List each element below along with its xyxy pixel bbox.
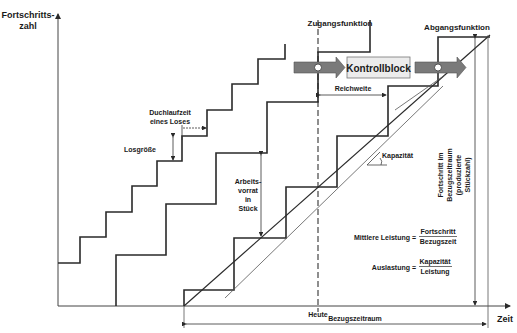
- x-axis-label: Zeit: [497, 314, 513, 324]
- fortschritt-label-2: Bezugszeitraum: [446, 148, 454, 202]
- arbeitsvorrat-label-2: vorrat: [238, 187, 259, 194]
- leistung-formula-den: Bezugszeit: [420, 238, 457, 246]
- capacity-line-2: [395, 75, 445, 110]
- durchlaufzeit-label-2: eines Loses: [150, 118, 190, 125]
- fortschritt-label-4: Stückzahl): [464, 157, 472, 192]
- inflow-node-icon: [315, 64, 322, 71]
- y-axis-label: Fortschritts-: [1, 10, 54, 20]
- capacity-arc-icon: [380, 158, 382, 165]
- heute-label: Heute: [308, 311, 328, 318]
- reichweite-label: Reichweite: [335, 85, 372, 92]
- arbeitsvorrat-label: Arbeits-: [235, 178, 262, 185]
- y-axis-label-2: zahl: [19, 21, 37, 31]
- losgroesse-label: Losgröße: [124, 146, 156, 154]
- arbeitsvorrat-label-4: Stück: [238, 205, 257, 212]
- leistung-formula-num: Fortschritt: [421, 228, 457, 235]
- kapazitaet-label: Kapazität: [382, 152, 414, 160]
- throughput-diagram: Fortschritts- zahl Zeit Heute Kapazität …: [0, 0, 517, 333]
- kontrollblock-label: Kontrollblock: [346, 63, 411, 74]
- auslastung-formula-den: Leistung: [420, 268, 449, 276]
- outflow-arrow: [415, 57, 466, 78]
- bezugszeitraum-label: Bezugszeitraum: [328, 315, 382, 323]
- arbeitsvorrat-label-3: in: [245, 196, 251, 203]
- durchlaufzeit-label: Duchlaufzeit: [149, 109, 191, 116]
- zugang-label: Zugangsfunktion: [308, 19, 373, 28]
- fortschritt-label-3: (produzierte: [455, 155, 463, 196]
- leistung-formula-lhs: Mittlere Leistung =: [354, 234, 416, 242]
- auslastung-formula-num: Kapazität: [419, 258, 451, 266]
- outflow-node-icon: [435, 64, 442, 71]
- fortschritt-label: Fortschritt im: [437, 152, 444, 197]
- fortschritt-label-group: Fortschritt im Bezugszeitraum (produzier…: [437, 148, 472, 202]
- auslastung-formula-lhs: Auslastung =: [372, 264, 416, 272]
- abgang-label: Abgangsfunktion: [424, 23, 490, 32]
- inflow-arrow: [294, 57, 345, 78]
